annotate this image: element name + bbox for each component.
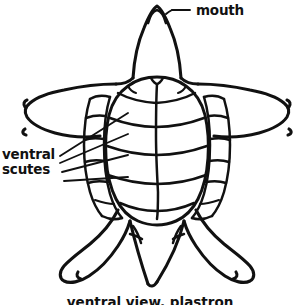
plastron-left-shoulder-notch	[128, 86, 136, 93]
right-marginal-div-3	[209, 160, 229, 162]
right-marginal-div-1	[209, 116, 228, 118]
head-outline	[133, 6, 181, 78]
left-rear-flipper-notch	[77, 272, 81, 279]
left-front-flipper-tip	[23, 129, 26, 135]
tail-tip	[148, 282, 157, 286]
right-rear-flipper	[184, 210, 254, 282]
left-marginal-div-1	[86, 116, 105, 118]
right-front-flipper-outline	[198, 84, 289, 137]
plastron-group	[106, 77, 209, 225]
plastron-right-shoulder-notch	[178, 86, 186, 93]
ventral-scutes-label-line2: scutes	[2, 162, 55, 177]
ventral-scutes-label-line1: ventral	[2, 146, 55, 162]
ventral-scutes-label: ventralscutes	[2, 147, 55, 177]
right-marginal-div-2	[210, 138, 230, 140]
tail-scute-left-bar	[130, 234, 142, 239]
plastron-midline	[156, 84, 158, 219]
right-rear-flipper-notch	[233, 272, 237, 279]
right-front-flipper	[198, 84, 291, 137]
left-rear-flipper	[60, 210, 130, 282]
left-marginal-top-cap	[90, 96, 110, 99]
left-rear-flipper-outline	[60, 210, 130, 282]
tail-group	[130, 221, 184, 286]
figure-caption: ventral view, plastron	[0, 294, 300, 305]
left-marginal-div-4	[88, 181, 108, 183]
mouth-leader-hook	[166, 10, 172, 14]
tail-right-edge	[157, 221, 184, 282]
right-rear-flipper-outline	[184, 210, 254, 282]
right-marginal-div-4	[206, 181, 226, 183]
mouth-label: mouth	[196, 2, 244, 18]
right-front-flipper-tip	[288, 129, 291, 135]
figure-canvas: mouth ventralscutes ventral view, plastr…	[0, 0, 300, 305]
head-group	[133, 6, 181, 78]
tail-left-edge	[130, 221, 148, 284]
right-marginal-top-cap	[204, 96, 224, 99]
